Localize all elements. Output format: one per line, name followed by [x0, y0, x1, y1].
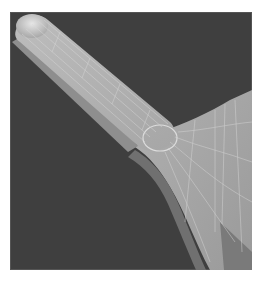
render-viewport	[10, 12, 252, 270]
mesh-render	[10, 12, 252, 270]
